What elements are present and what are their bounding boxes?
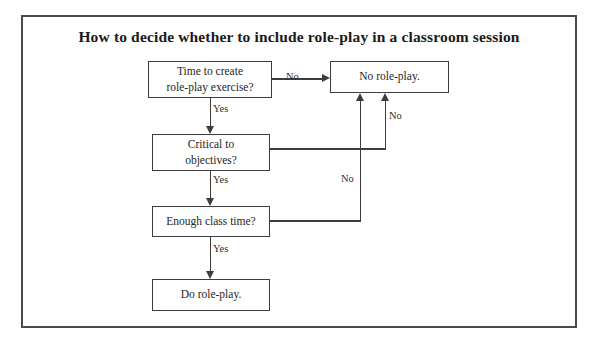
diagram-frame: [21, 15, 577, 328]
edge-enough-to-doplay-arrowhead: [206, 271, 214, 279]
edge-critical-to-noplay-arrowhead: [381, 93, 389, 101]
edge-time-to-critical-line: [210, 98, 212, 126]
edge-label-critical-yes: Yes: [213, 174, 228, 185]
flowchart-canvas: How to decide whether to include role-pl…: [0, 0, 597, 344]
edge-critical-to-noplay-vertical: [385, 101, 387, 149]
edge-time-to-critical-arrowhead: [206, 126, 214, 134]
node-critical-to-objectives-label: Critical to objectives?: [181, 137, 241, 167]
node-do-role-play[interactable]: Do role-play.: [152, 279, 270, 311]
edge-enough-to-noplay-horizontal: [270, 220, 361, 222]
edge-label-critical-no: No: [389, 110, 402, 121]
diagram-title: How to decide whether to include role-pl…: [21, 28, 577, 46]
node-time-to-create[interactable]: Time to create role-play exercise?: [148, 61, 272, 98]
edge-critical-to-enough-arrowhead: [206, 198, 214, 206]
edge-label-time-no: No: [286, 71, 299, 82]
node-critical-to-objectives[interactable]: Critical to objectives?: [152, 134, 270, 171]
edge-label-enough-no: No: [341, 173, 354, 184]
edge-label-enough-yes: Yes: [213, 243, 228, 254]
node-do-role-play-label: Do role-play.: [177, 287, 246, 302]
edge-label-time-yes: Yes: [213, 103, 228, 114]
edge-critical-to-noplay-horizontal: [270, 148, 386, 150]
node-no-role-play[interactable]: No role-play.: [330, 61, 449, 93]
edge-critical-to-enough-line: [210, 171, 212, 198]
node-enough-class-time-label: Enough class time?: [162, 214, 259, 229]
node-time-to-create-label: Time to create role-play exercise?: [162, 64, 257, 94]
node-no-role-play-label: No role-play.: [355, 69, 424, 84]
edge-time-to-noplay-arrowhead: [322, 74, 330, 82]
edge-enough-to-noplay-vertical: [360, 101, 362, 221]
node-enough-class-time[interactable]: Enough class time?: [152, 206, 270, 237]
edge-enough-to-doplay-line: [210, 237, 212, 271]
edge-enough-to-noplay-arrowhead: [356, 93, 364, 101]
